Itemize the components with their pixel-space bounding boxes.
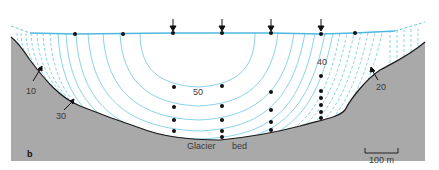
arrow-down-icon	[318, 19, 324, 31]
bed-label-glacier: Glacier	[187, 142, 216, 151]
panel-label: b	[27, 150, 33, 159]
bed-label-bed: bed	[232, 142, 247, 151]
contour-label-40: 40	[317, 58, 327, 67]
glacier-cross-section-figure: 10 30 50 40 20 Glacier bed 100 m b	[0, 0, 439, 170]
cross-section-diagram	[0, 0, 439, 170]
contour-label-50: 50	[193, 88, 203, 97]
glacier-surface-dashed-right	[395, 22, 425, 31]
arrow-down-icon	[219, 19, 225, 31]
glacier-surface-dashed-left	[11, 26, 30, 33]
scale-bar-label: 100 m	[369, 156, 394, 165]
arrow-down-icon	[268, 19, 274, 31]
label-pointer-arrows	[33, 66, 378, 110]
contour-label-10: 10	[26, 87, 36, 96]
surface-marker-arrows	[170, 19, 324, 31]
contour-label-20: 20	[376, 83, 386, 92]
contour-label-30: 30	[56, 112, 66, 121]
glacier-surface	[30, 31, 395, 34]
arrow-down-icon	[170, 19, 176, 31]
